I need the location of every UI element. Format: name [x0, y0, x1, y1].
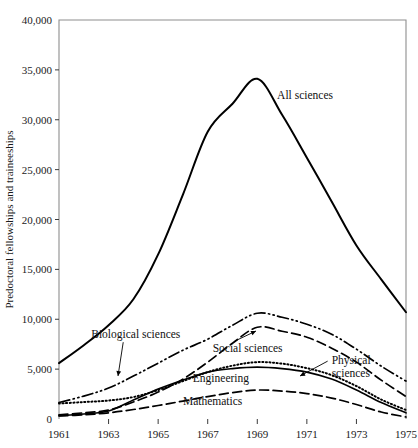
- x-tick-label: 1965: [147, 428, 170, 440]
- series-annotation-all-sciences: All sciences: [277, 89, 333, 101]
- series-annotation-engineering: Engineering: [193, 372, 249, 385]
- y-tick-label: 25,000: [22, 164, 53, 176]
- x-tick-label: 1971: [296, 428, 318, 440]
- series-annotation-label: Mathematics: [183, 395, 243, 407]
- y-tick-label: 10,000: [22, 313, 53, 325]
- y-tick-label: 20,000: [22, 214, 53, 226]
- y-tick-label: 5,000: [27, 363, 52, 375]
- series-annotation-label: sciences: [332, 367, 371, 379]
- y-tick-label: 40,000: [22, 14, 53, 26]
- chart-page: 05,00010,00015,00020,00025,00030,00035,0…: [0, 0, 418, 448]
- y-tick-label: 30,000: [22, 114, 53, 126]
- x-tick-label: 1967: [197, 428, 220, 440]
- x-tick-label: 1961: [48, 428, 70, 440]
- x-tick-label: 1975: [395, 428, 418, 440]
- x-tick-label: 1963: [98, 428, 121, 440]
- y-axis-title: Predoctoral fellowships and traineeships: [3, 130, 15, 308]
- series-annotation-label: Social sciences: [213, 342, 283, 354]
- series-annotation-mathematics: Mathematics: [183, 395, 243, 407]
- line-chart: 05,00010,00015,00020,00025,00030,00035,0…: [0, 0, 418, 448]
- y-tick-label: 15,000: [22, 263, 53, 275]
- series-annotation-label: Engineering: [193, 372, 249, 385]
- y-tick-label: 35,000: [22, 64, 53, 76]
- y-tick-label: 0: [47, 413, 53, 425]
- series-annotation-label: Physical: [332, 354, 371, 367]
- series-annotation-label: All sciences: [277, 89, 333, 101]
- x-tick-label: 1969: [246, 428, 269, 440]
- x-tick-label: 1973: [345, 428, 368, 440]
- series-annotation-label: Biological sciences: [91, 328, 181, 341]
